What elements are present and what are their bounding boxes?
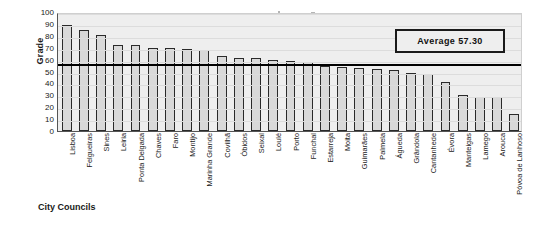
x-axis-tick: Felgueiras — [86, 133, 94, 168]
gridline — [58, 85, 521, 86]
y-axis-tick: 60 — [45, 57, 54, 65]
gridline — [58, 121, 521, 122]
x-axis-tick: Arouca — [499, 133, 507, 156]
bar — [148, 48, 158, 131]
bar — [492, 97, 502, 132]
gridline — [58, 97, 521, 98]
x-axis-tick: Covilhã — [224, 133, 232, 158]
x-axis-tick: Moita — [344, 133, 352, 151]
x-axis-tick: Palmela — [379, 133, 387, 160]
x-axis-tick: Montijo — [189, 133, 197, 157]
x-axis-tick: Seixal — [258, 133, 266, 153]
bar — [62, 25, 72, 131]
x-axis-tick: Manteigas — [465, 133, 473, 167]
bar-chart: Grade 1009080706050403020100 Average 57.… — [0, 0, 535, 236]
scan-speck — [311, 12, 315, 13]
x-axis-tick: Marinha Grande — [206, 133, 214, 186]
bar — [406, 73, 416, 131]
bar — [458, 95, 468, 131]
x-axis-tick: Grândola — [413, 133, 421, 163]
bar — [441, 82, 451, 131]
x-axis-tick: Óbidos — [241, 133, 249, 156]
average-line — [58, 64, 521, 66]
x-axis-tick: Póvoa de Lanhoso — [516, 133, 524, 195]
y-axis-tick: 10 — [45, 116, 54, 124]
y-axis-tick: 70 — [45, 45, 54, 53]
x-axis-tick: Funchal — [310, 133, 318, 159]
x-axis-tick: Guimarães — [361, 133, 369, 169]
bar — [475, 97, 485, 132]
bar — [79, 30, 89, 131]
bar — [423, 74, 433, 131]
y-axis-tick: 20 — [45, 104, 54, 112]
bar — [509, 114, 519, 131]
y-axis-tick: 30 — [45, 92, 54, 100]
y-axis-tick: 0 — [50, 128, 54, 136]
x-axis-tick: Loulé — [275, 133, 283, 151]
x-axis-tick: Estarreja — [327, 133, 335, 163]
average-legend-box: Average 57.30 — [395, 29, 505, 53]
gridline — [58, 14, 521, 15]
gridline — [58, 62, 521, 63]
x-axis-tick: Águeda — [396, 133, 404, 158]
gridline — [58, 109, 521, 110]
gridline — [58, 74, 521, 75]
bar — [217, 56, 227, 131]
y-axis-tick: 40 — [45, 80, 54, 88]
y-axis-tick: 90 — [45, 21, 54, 29]
y-axis-tick: 50 — [45, 69, 54, 77]
gridline — [58, 26, 521, 27]
average-legend-label: Average 57.30 — [417, 36, 482, 46]
bar — [165, 48, 175, 131]
x-axis-tick: Lamego — [482, 133, 490, 160]
x-axis-tick: Sines — [103, 133, 111, 152]
x-axis-tick: Chaves — [155, 133, 163, 158]
x-axis-tick: Porto — [293, 133, 301, 151]
x-axis-tick: Évora — [448, 133, 456, 152]
scan-speck — [278, 11, 280, 13]
y-axis-tick-labels: 1009080706050403020100 — [30, 13, 54, 132]
y-axis-tick: 100 — [41, 9, 54, 17]
x-axis-tick: Lisboa — [69, 133, 77, 155]
x-axis-tick: Cantanhede — [430, 133, 438, 173]
bar — [113, 45, 123, 131]
x-axis-tick: Ponta Delgada — [138, 133, 146, 182]
x-axis-title: City Councils — [38, 202, 96, 212]
bar — [131, 45, 141, 131]
y-axis-tick: 80 — [45, 33, 54, 41]
x-axis-tick-labels: LisboaFelgueirasSinesLeiriaPonta Delgada… — [57, 133, 522, 218]
x-axis-tick: Faro — [172, 133, 180, 148]
x-axis-tick: Leiria — [120, 133, 128, 151]
